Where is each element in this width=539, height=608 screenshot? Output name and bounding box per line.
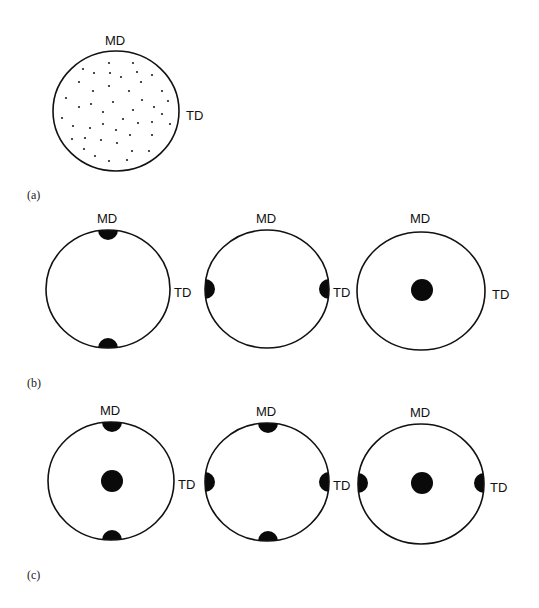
stipple-dot bbox=[90, 103, 92, 105]
panel-a: (a)MDTD bbox=[27, 33, 203, 202]
md-label: MD bbox=[256, 404, 276, 419]
pole-figure-md-poles: MDTD bbox=[46, 211, 191, 358]
projection-circle bbox=[53, 51, 179, 171]
projection-circle bbox=[205, 230, 329, 348]
md-label: MD bbox=[256, 211, 276, 226]
stipple-dot bbox=[108, 160, 110, 162]
stipple-dot bbox=[167, 100, 169, 102]
stipple-dot bbox=[132, 62, 134, 64]
stipple-dot bbox=[93, 72, 95, 74]
pole-figure-md-and-td-poles: MDTD bbox=[195, 404, 350, 551]
stipple-dot bbox=[89, 127, 91, 129]
md-label: MD bbox=[97, 211, 117, 226]
pole-figure-td-and-normal-poles: MDTD bbox=[348, 405, 507, 544]
stipple-dot bbox=[131, 150, 133, 152]
stipple-dot bbox=[169, 123, 171, 125]
pole-center bbox=[411, 279, 433, 301]
panel-b: (b)MDTDMDTDMDTD bbox=[27, 211, 509, 390]
td-label: TD bbox=[174, 285, 191, 300]
td-label: TD bbox=[333, 478, 350, 493]
td-label: TD bbox=[186, 108, 203, 123]
stipple-dot bbox=[129, 134, 131, 136]
pole-center bbox=[411, 472, 433, 494]
stipple-dot bbox=[116, 142, 118, 144]
stipple-dot bbox=[108, 62, 110, 64]
stipple-dot bbox=[71, 138, 73, 140]
stipple-dot bbox=[141, 99, 143, 101]
projection-circle bbox=[46, 230, 170, 348]
stipple-dot bbox=[83, 148, 85, 150]
stipple-dot bbox=[132, 109, 134, 111]
pole-figure-td-poles: MDTD bbox=[195, 211, 350, 348]
stipple-dot bbox=[137, 122, 139, 124]
stipple-dot bbox=[120, 76, 122, 78]
md-label: MD bbox=[410, 211, 430, 226]
td-label: TD bbox=[333, 285, 350, 300]
stipple-dot bbox=[151, 74, 153, 76]
stipple-dot bbox=[109, 72, 111, 74]
panel-label: (a) bbox=[27, 188, 40, 202]
stipple-dot bbox=[148, 150, 150, 152]
panel-c: (c)MDTDMDTDMDTD bbox=[27, 403, 507, 582]
md-label: MD bbox=[100, 403, 120, 418]
stipple-dot bbox=[72, 125, 74, 127]
panel-label: (c) bbox=[27, 568, 40, 582]
pole-center bbox=[101, 470, 123, 492]
stipple-dot bbox=[92, 90, 94, 92]
md-label: MD bbox=[105, 33, 125, 48]
td-label: TD bbox=[178, 477, 195, 492]
stipple-dot bbox=[100, 139, 102, 141]
stipple-dot bbox=[161, 113, 163, 115]
stipple-dot bbox=[94, 155, 96, 157]
stipple-dot bbox=[78, 81, 80, 83]
stipple-dot bbox=[122, 118, 124, 120]
stipple-dot bbox=[102, 111, 104, 113]
pole-figure-normal-pole: MDTD bbox=[357, 211, 509, 350]
stipple-dot bbox=[82, 68, 84, 70]
stipple-dot bbox=[151, 134, 153, 136]
td-label: TD bbox=[492, 287, 509, 302]
pole-figure-md-and-normal-poles: MDTD bbox=[48, 403, 195, 550]
stipple-dot bbox=[102, 123, 104, 125]
stipple-dot bbox=[161, 90, 163, 92]
stipple-dot bbox=[140, 81, 142, 83]
stipple-dot bbox=[115, 129, 117, 131]
stipple-dot bbox=[61, 117, 63, 119]
stipple-dot bbox=[84, 137, 86, 139]
stipple-dot bbox=[151, 121, 153, 123]
pole-figure-random-orientation: MDTD bbox=[53, 33, 203, 171]
stipple-dot bbox=[153, 106, 155, 108]
stipple-dot bbox=[126, 159, 128, 161]
pole-figure-diagram: (a)MDTD(b)MDTDMDTDMDTD(c)MDTDMDTDMDTD bbox=[0, 0, 539, 608]
projection-circle bbox=[205, 423, 329, 541]
stipple-dot bbox=[65, 97, 67, 99]
stipple-dot bbox=[78, 106, 80, 108]
stipple-dot bbox=[112, 101, 114, 103]
stipple-dot bbox=[136, 71, 138, 73]
stipple-dot bbox=[108, 85, 110, 87]
md-label: MD bbox=[410, 405, 430, 420]
stipple-dots bbox=[61, 62, 171, 162]
panel-label: (b) bbox=[27, 376, 41, 390]
stipple-dot bbox=[128, 90, 130, 92]
td-label: TD bbox=[490, 480, 507, 495]
